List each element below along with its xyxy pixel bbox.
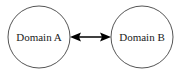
node-domain-b-label: Domain B: [119, 32, 165, 43]
bidirectional-arrow: [70, 33, 111, 42]
node-domain-a-label: Domain A: [16, 32, 62, 43]
